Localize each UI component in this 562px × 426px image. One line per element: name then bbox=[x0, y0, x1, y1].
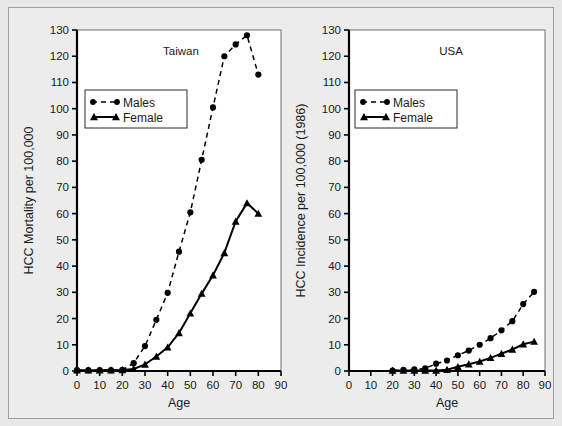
data-point-marker bbox=[520, 301, 526, 307]
y-axis-title: HCC Mortality per 100,000 bbox=[22, 126, 36, 274]
legend-label-female: Female bbox=[393, 111, 433, 125]
data-point-marker bbox=[509, 318, 515, 324]
data-point-marker bbox=[199, 157, 205, 163]
y-tick-label: 120 bbox=[50, 50, 69, 62]
x-tick-label: 80 bbox=[252, 379, 265, 391]
y-tick-label: 100 bbox=[322, 103, 341, 115]
data-point-marker bbox=[433, 361, 439, 367]
legend: MalesFemale bbox=[85, 90, 187, 128]
plot-area-background bbox=[77, 30, 281, 371]
legend-male-marker-end bbox=[384, 99, 390, 105]
y-tick-label: 90 bbox=[328, 129, 341, 141]
data-point-marker bbox=[142, 343, 148, 349]
y-tick-label: 0 bbox=[335, 365, 341, 377]
data-point-marker bbox=[455, 352, 461, 358]
legend-label-males: Males bbox=[123, 96, 155, 110]
x-tick-label: 30 bbox=[139, 379, 152, 391]
data-point-marker bbox=[531, 289, 537, 295]
y-tick-label: 20 bbox=[56, 313, 69, 325]
y-tick-label: 110 bbox=[51, 76, 69, 88]
data-point-marker bbox=[221, 53, 227, 59]
y-tick-label: 30 bbox=[328, 286, 341, 298]
y-tick-label: 50 bbox=[328, 234, 341, 246]
y-tick-label: 10 bbox=[328, 339, 341, 351]
data-point-marker bbox=[187, 209, 193, 215]
usa-plot-svg: 0102030405060708090100110120130010203040… bbox=[283, 8, 555, 420]
x-tick-label: 20 bbox=[386, 379, 399, 391]
plot-area-background bbox=[349, 30, 545, 371]
x-tick-label: 70 bbox=[495, 379, 508, 391]
y-tick-label: 70 bbox=[56, 181, 69, 193]
y-axis-ticks: 0102030405060708090100110120130 bbox=[322, 24, 349, 377]
y-tick-label: 130 bbox=[322, 24, 341, 36]
y-tick-label: 120 bbox=[322, 50, 341, 62]
y-tick-label: 80 bbox=[56, 155, 69, 167]
y-tick-label: 10 bbox=[56, 339, 69, 351]
legend-male-marker-start bbox=[90, 99, 96, 105]
y-tick-label: 0 bbox=[63, 365, 69, 377]
x-tick-label: 40 bbox=[430, 379, 443, 391]
y-axis-ticks: 0102030405060708090100110120130 bbox=[50, 24, 77, 377]
data-point-marker bbox=[176, 249, 182, 255]
y-tick-label: 110 bbox=[323, 76, 341, 88]
x-axis-title: Age bbox=[168, 396, 190, 410]
x-tick-label: 0 bbox=[74, 379, 80, 391]
y-tick-label: 80 bbox=[328, 155, 341, 167]
legend-label-female: Female bbox=[123, 111, 163, 125]
y-axis-title: HCC Incidence per 100,000 (1986) bbox=[294, 104, 308, 298]
chart-panel-usa: 0102030405060708090100110120130010203040… bbox=[283, 8, 555, 420]
x-tick-label: 60 bbox=[473, 379, 486, 391]
data-point-marker bbox=[255, 71, 261, 77]
data-point-marker bbox=[466, 347, 472, 353]
y-tick-label: 100 bbox=[50, 103, 69, 115]
y-tick-label: 50 bbox=[56, 234, 69, 246]
data-point-marker bbox=[444, 357, 450, 363]
y-tick-label: 90 bbox=[56, 129, 69, 141]
x-tick-label: 70 bbox=[229, 379, 242, 391]
x-tick-label: 80 bbox=[517, 379, 530, 391]
x-tick-label: 40 bbox=[161, 379, 174, 391]
x-tick-label: 30 bbox=[408, 379, 421, 391]
chart-panel-taiwan: 0102030405060708090100110120130010203040… bbox=[9, 8, 291, 420]
y-tick-label: 130 bbox=[50, 24, 69, 36]
x-tick-label: 60 bbox=[207, 379, 220, 391]
y-tick-label: 40 bbox=[328, 260, 341, 272]
y-tick-label: 60 bbox=[56, 208, 69, 220]
legend-male-marker-end bbox=[114, 99, 120, 105]
x-axis-title: Age bbox=[436, 396, 458, 410]
data-point-marker bbox=[477, 342, 483, 348]
data-point-marker bbox=[210, 104, 216, 110]
taiwan-plot-svg: 0102030405060708090100110120130010203040… bbox=[9, 8, 291, 420]
legend: MalesFemale bbox=[355, 90, 457, 128]
x-tick-label: 90 bbox=[539, 379, 552, 391]
legend-label-males: Males bbox=[393, 96, 425, 110]
data-point-marker bbox=[498, 327, 504, 333]
y-tick-label: 30 bbox=[56, 286, 69, 298]
data-point-marker bbox=[165, 290, 171, 296]
x-tick-label: 20 bbox=[116, 379, 129, 391]
data-point-marker bbox=[487, 335, 493, 341]
x-tick-label: 10 bbox=[93, 379, 106, 391]
x-axis-ticks: 0102030405060708090 bbox=[74, 371, 288, 391]
y-tick-label: 60 bbox=[328, 208, 341, 220]
x-tick-label: 50 bbox=[451, 379, 464, 391]
legend-male-marker-start bbox=[360, 99, 366, 105]
x-tick-label: 10 bbox=[364, 379, 377, 391]
figure-frame: 0102030405060708090100110120130010203040… bbox=[8, 7, 554, 419]
data-point-marker bbox=[244, 32, 250, 38]
x-axis-ticks: 0102030405060708090 bbox=[346, 371, 552, 391]
x-tick-label: 0 bbox=[346, 379, 352, 391]
y-tick-label: 70 bbox=[328, 181, 341, 193]
x-tick-label: 50 bbox=[184, 379, 197, 391]
data-point-marker bbox=[153, 317, 159, 323]
panel-title: Taiwan bbox=[163, 45, 199, 57]
y-tick-label: 40 bbox=[56, 260, 69, 272]
data-point-marker bbox=[233, 41, 239, 47]
panel-title: USA bbox=[439, 45, 463, 57]
y-tick-label: 20 bbox=[328, 313, 341, 325]
figure-root: 0102030405060708090100110120130010203040… bbox=[0, 0, 562, 426]
